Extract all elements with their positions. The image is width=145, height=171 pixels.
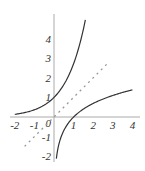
x-tick-label: -1 [30,119,39,131]
y-tick-label: 3 [45,52,52,64]
y-tick-label: 4 [46,33,52,45]
x-tick-label: 1 [71,119,77,131]
x-tick-label: 3 [109,119,116,131]
y-tick-label: -2 [42,150,52,162]
tick-labels: -2-1123404321-1-2 [10,33,135,163]
y-tick-label: 2 [46,72,52,84]
x-tick-label: -2 [10,119,20,131]
axes [10,14,140,162]
identity-line [25,62,109,146]
x-tick-label: 2 [90,119,96,131]
origin-label: 0 [46,117,52,129]
x-tick-label: 4 [130,119,136,131]
function-plot: -2-1123404321-1-2 [0,0,145,171]
y-tick-label: -1 [42,131,51,143]
